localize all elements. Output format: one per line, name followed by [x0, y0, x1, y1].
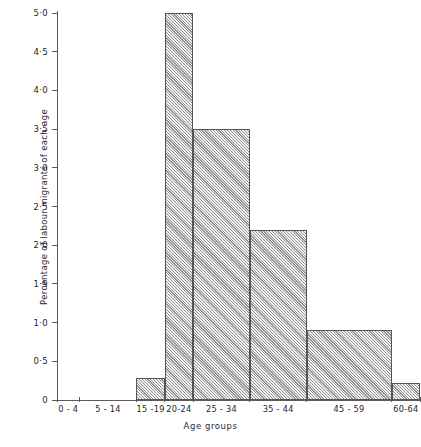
y-tick-mark	[52, 13, 58, 14]
histogram-figure: Percentage of labour migrants of each ag…	[0, 0, 421, 447]
x-axis-line	[57, 400, 420, 401]
y-tick-mark	[52, 361, 58, 362]
y-tick-label: 1·0	[2, 318, 48, 328]
y-tick-label: 3·5	[2, 124, 48, 134]
y-tick-label: 0·5	[2, 356, 48, 366]
x-axis-title: Age groups	[0, 421, 421, 431]
y-tick-label: 2·0	[2, 240, 48, 250]
bar	[307, 330, 392, 400]
y-tick-label: 1·5	[2, 279, 48, 289]
x-tick-mark	[57, 397, 58, 402]
y-tick-label: 3·0	[2, 163, 48, 173]
y-tick-mark	[52, 206, 58, 207]
bar	[250, 230, 307, 400]
bar	[193, 129, 250, 400]
y-tick-label: 4·5	[2, 47, 48, 57]
y-tick-mark	[52, 129, 58, 130]
y-tick-label: 4·0	[2, 85, 48, 95]
y-tick-mark	[52, 51, 58, 52]
y-tick-mark	[52, 245, 58, 246]
bar	[136, 378, 164, 400]
y-tick-label: 2·5	[2, 202, 48, 212]
x-tick-label: 35 - 44	[238, 404, 318, 414]
y-tick-mark	[52, 283, 58, 284]
y-tick-mark	[52, 90, 58, 91]
x-tick-mark	[79, 397, 80, 402]
bar	[165, 13, 193, 400]
y-tick-mark	[52, 167, 58, 168]
y-tick-label: 5·0	[2, 8, 48, 18]
x-tick-label: 60-64	[366, 404, 421, 414]
y-tick-mark	[52, 322, 58, 323]
bar	[392, 383, 420, 400]
